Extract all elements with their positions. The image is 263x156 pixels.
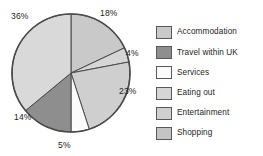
legend-swatch-travel-within-uk xyxy=(156,46,172,59)
slice-label-shopping: 36% xyxy=(11,11,29,21)
pie-svg xyxy=(0,0,140,156)
legend-item-services: Services xyxy=(156,65,263,80)
slice-label-services: 5% xyxy=(58,140,71,150)
legend-item-eating-out: Eating out xyxy=(156,86,263,101)
legend-swatch-accommodation xyxy=(156,26,172,39)
legend-item-travel-within-uk: Travel within UK xyxy=(156,45,263,60)
slice-label-eating-out: 4% xyxy=(126,48,139,58)
legend-swatch-entertainment xyxy=(156,107,172,120)
chart-legend: Accommodation Travel within UK Services … xyxy=(156,25,263,146)
legend-label-travel-within-uk: Travel within UK xyxy=(177,49,238,57)
legend-swatch-eating-out xyxy=(156,87,172,100)
legend-label-accommodation: Accommodation xyxy=(177,28,237,36)
legend-swatch-shopping xyxy=(156,127,172,140)
legend-label-services: Services xyxy=(177,69,209,77)
legend-item-entertainment: Entertainment xyxy=(156,106,263,121)
legend-label-eating-out: Eating out xyxy=(177,89,215,97)
legend-item-accommodation: Accommodation xyxy=(156,25,263,40)
legend-label-entertainment: Entertainment xyxy=(177,109,229,117)
pie-chart-figure: 18% 4% 23% 5% 14% 36% Accommodation Trav… xyxy=(0,0,263,156)
legend-swatch-services xyxy=(156,66,172,79)
slice-label-accommodation: 18% xyxy=(100,8,118,18)
slice-label-entertainment: 23% xyxy=(119,86,137,96)
legend-item-shopping: Shopping xyxy=(156,126,263,141)
slice-label-travel-within-uk: 14% xyxy=(14,112,32,122)
pie-plot-area: 18% 4% 23% 5% 14% 36% xyxy=(0,0,140,156)
legend-label-shopping: Shopping xyxy=(177,129,212,137)
